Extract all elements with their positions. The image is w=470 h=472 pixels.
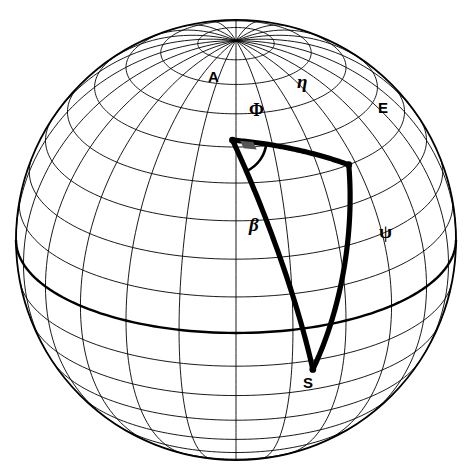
vertex-label-S: S xyxy=(303,375,313,390)
side-label-eta: η xyxy=(297,72,307,91)
globe-diagram xyxy=(0,0,470,472)
vertex-label-E: E xyxy=(378,100,388,115)
side-label-beta: β xyxy=(249,215,259,234)
angle-label-phi: Φ xyxy=(249,101,264,119)
spherical-triangle xyxy=(232,140,350,369)
vertex-label-A: A xyxy=(208,69,219,84)
side-label-psi: ψ xyxy=(379,222,392,241)
figure-canvas: A E S η β ψ Φ xyxy=(0,0,470,472)
